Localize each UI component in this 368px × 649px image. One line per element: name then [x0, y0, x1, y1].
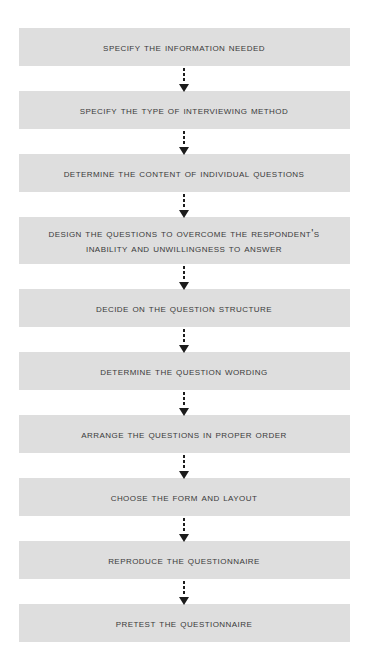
flowchart-connector-7-8 [19, 453, 350, 478]
flowchart-connector-5-6 [19, 327, 350, 352]
arrow-down-icon [179, 147, 189, 155]
flowchart-step-2: Specify the Type of Interviewing Method [19, 91, 350, 129]
flowchart-step-6-label: Determine the Question Wording [100, 364, 267, 379]
flowchart-connector-3-4 [19, 192, 350, 217]
flowchart-step-8-label: Choose the Form and Layout [111, 490, 258, 505]
flowchart-step-2-label: Specify the Type of Interviewing Method [80, 103, 289, 118]
dotted-line-icon [183, 579, 186, 597]
flowchart-connector-1-2 [19, 66, 350, 91]
dotted-line-icon [183, 327, 186, 345]
flowchart-step-3: Determine the Content of Individual Ques… [19, 154, 350, 192]
flowchart-connector-6-7 [19, 390, 350, 415]
questionnaire-design-flowchart: Specify the Information Needed Specify t… [0, 0, 368, 649]
dotted-line-icon [183, 516, 186, 534]
dotted-line-icon [183, 264, 186, 282]
dotted-line-icon [183, 66, 186, 84]
dotted-line-icon [183, 390, 186, 408]
flowchart-step-6: Determine the Question Wording [19, 352, 350, 390]
flowchart-step-1-label: Specify the Information Needed [103, 40, 265, 55]
flowchart-step-4-label: Design the Questions to Overcome the Res… [48, 226, 319, 256]
arrow-down-icon [179, 282, 189, 290]
flowchart-step-5: Decide on the Question Structure [19, 289, 350, 327]
arrow-down-icon [179, 84, 189, 92]
flowchart-step-1: Specify the Information Needed [19, 28, 350, 66]
flowchart-step-4: Design the Questions to Overcome the Res… [19, 217, 350, 264]
flowchart-connector-2-3 [19, 129, 350, 154]
arrow-down-icon [179, 597, 189, 605]
flowchart-step-9: Reproduce the Questionnaire [19, 541, 350, 579]
flowchart-connector-4-5 [19, 264, 350, 289]
flowchart-step-3-label: Determine the Content of Individual Ques… [64, 166, 305, 181]
flowchart-step-8: Choose the Form and Layout [19, 478, 350, 516]
dotted-line-icon [183, 129, 186, 147]
flowchart-connector-9-10 [19, 579, 350, 604]
flowchart-step-9-label: Reproduce the Questionnaire [108, 553, 260, 568]
flowchart-step-10: Pretest the Questionnaire [19, 604, 350, 642]
flowchart-step-7: Arrange the Questions in Proper Order [19, 415, 350, 453]
arrow-down-icon [179, 408, 189, 416]
dotted-line-icon [183, 192, 186, 210]
flowchart-connector-8-9 [19, 516, 350, 541]
flowchart-step-7-label: Arrange the Questions in Proper Order [81, 427, 287, 442]
arrow-down-icon [179, 471, 189, 479]
flowchart-step-5-label: Decide on the Question Structure [96, 301, 272, 316]
flowchart-step-10-label: Pretest the Questionnaire [116, 616, 253, 631]
dotted-line-icon [183, 453, 186, 471]
arrow-down-icon [179, 345, 189, 353]
arrow-down-icon [179, 534, 189, 542]
arrow-down-icon [179, 210, 189, 218]
